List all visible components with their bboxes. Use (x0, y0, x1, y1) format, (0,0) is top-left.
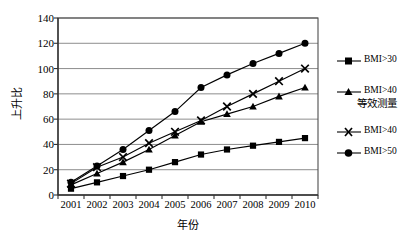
data-point-circle (276, 50, 283, 57)
x-axis-title: 年份 (58, 216, 318, 232)
legend-marker-circle-icon (336, 145, 362, 157)
legend-label: BMI>40 (362, 85, 397, 96)
series-line (71, 69, 305, 184)
series-line (71, 43, 305, 182)
data-point-triangle (301, 84, 309, 91)
legend-sublabel: 等效测量 (336, 97, 404, 109)
legend-marker-x-icon (336, 124, 362, 136)
data-point-triangle (249, 103, 257, 110)
y-axis-title: 上升比 (8, 73, 24, 133)
y-tick-label: 80 (24, 89, 54, 100)
data-point-square (302, 135, 308, 141)
legend-label: BMI>30 (362, 54, 397, 65)
y-tick-label: 60 (24, 114, 54, 125)
data-point-circle (224, 71, 231, 78)
y-tick-label: 140 (24, 13, 54, 24)
legend-label: BMI>50 (362, 146, 397, 157)
data-point-circle (68, 179, 75, 186)
axis-ticks (54, 18, 318, 199)
data-point-square (146, 167, 152, 173)
x-axis-tick-labels: 2001200220032004200520062007200820092010 (0, 199, 404, 215)
data-point-circle (250, 60, 257, 67)
legend-marker-triangle-icon (336, 84, 362, 96)
data-point-square (276, 139, 282, 145)
data-point-x (275, 77, 283, 85)
x-tick-label: 2010 (285, 199, 325, 211)
legend-entry-bmi50[interactable]: BMI>50 (336, 144, 404, 158)
legend-entry-bmi40-x[interactable]: BMI>40 (336, 123, 404, 137)
data-point-circle (198, 84, 205, 91)
chart-legend: BMI>30 BMI>40 等效测量 BMI>40 (336, 52, 404, 158)
data-point-circle (120, 146, 127, 153)
data-series (68, 40, 309, 186)
data-point-circle (172, 108, 179, 115)
chart-figure: 020406080100120140 200120022003200420052… (0, 0, 404, 239)
data-point-square (250, 143, 256, 149)
legend-label: BMI>40 (362, 125, 397, 136)
y-tick-label: 20 (24, 165, 54, 176)
data-point-square (198, 151, 204, 157)
data-point-circle (146, 127, 153, 134)
data-point-square (120, 173, 126, 179)
legend-entry-bmi40-triangle[interactable]: BMI>40 (336, 83, 404, 97)
data-series (67, 65, 309, 188)
data-point-square (172, 159, 178, 165)
y-tick-label: 40 (24, 139, 54, 150)
data-point-circle (302, 40, 309, 47)
data-series-group (67, 40, 309, 192)
legend-entry-bmi30[interactable]: BMI>30 (336, 52, 404, 66)
data-point-circle (94, 162, 101, 169)
data-series (68, 135, 308, 192)
data-point-square (94, 179, 100, 185)
y-tick-label: 100 (24, 64, 54, 75)
data-point-square (224, 146, 230, 152)
data-point-x (223, 103, 231, 111)
series-line (71, 88, 305, 185)
y-tick-label: 120 (24, 38, 54, 49)
legend-marker-square-icon (336, 53, 362, 65)
